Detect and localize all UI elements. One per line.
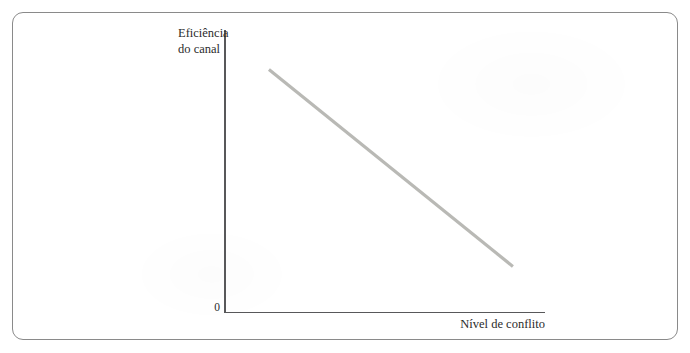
origin-label: 0 (208, 300, 220, 316)
trend-line-layer (0, 0, 690, 353)
y-axis-label: Eficiência do canal (178, 26, 222, 57)
x-axis-label: Nível de conflito (395, 317, 545, 333)
efficiency-trend-line (269, 69, 513, 266)
figure-canvas: Eficiência do canal Nível de conflito 0 (0, 0, 690, 353)
line-chart: Eficiência do canal Nível de conflito 0 (0, 0, 690, 353)
